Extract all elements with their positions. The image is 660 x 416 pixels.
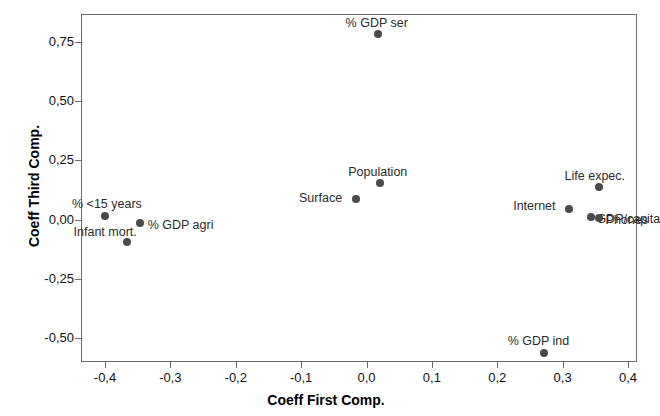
x-tick-label: -0,1 (281, 371, 321, 384)
x-tick-label: -0,2 (216, 371, 256, 384)
x-tick-mark (432, 362, 433, 368)
data-point-label: Internet (513, 200, 555, 213)
x-tick-mark (367, 362, 368, 368)
x-tick-mark (105, 362, 106, 368)
data-point-label: Population (348, 166, 407, 179)
data-point (136, 219, 144, 227)
x-tick-mark (497, 362, 498, 368)
data-point-label: % GDP ind (508, 335, 570, 348)
x-tick-label: -0,3 (150, 371, 190, 384)
data-point (595, 214, 603, 222)
y-axis-title: Coeff Third Comp. (26, 56, 42, 316)
y-tick-mark (75, 338, 81, 339)
x-tick-label: -0,4 (85, 371, 125, 384)
data-point (352, 195, 360, 203)
x-tick-label: 0,0 (347, 371, 387, 384)
x-tick-mark (563, 362, 564, 368)
data-point (595, 183, 603, 191)
x-tick-label: 0,2 (477, 371, 517, 384)
y-tick-mark (75, 42, 81, 43)
y-tick-mark (75, 220, 81, 221)
data-point (374, 30, 382, 38)
y-tick-label: 0,50 (49, 94, 74, 107)
data-point (101, 212, 109, 220)
x-axis-title: Coeff First Comp. (0, 392, 652, 408)
x-tick-label: 0,1 (412, 371, 452, 384)
x-tick-label: 0,3 (543, 371, 583, 384)
data-point (123, 238, 131, 246)
data-point (540, 349, 548, 357)
y-tick-mark (75, 160, 81, 161)
x-tick-mark (628, 362, 629, 368)
y-tick-mark (75, 101, 81, 102)
x-tick-label: 0,4 (608, 371, 648, 384)
data-point-label: Surface (299, 192, 342, 205)
y-tick-mark (75, 279, 81, 280)
y-tick-label: -0,50 (44, 331, 74, 344)
data-point-label: % <15 years (72, 198, 142, 211)
x-tick-mark (170, 362, 171, 368)
plot-area-frame (81, 14, 637, 362)
y-tick-label: -0,25 (44, 272, 74, 285)
x-tick-mark (301, 362, 302, 368)
data-point-label: % GDP ser (346, 17, 408, 30)
data-point-label: Infant mort. (74, 226, 137, 239)
data-point-label: Phones (606, 214, 648, 227)
y-tick-label: 0,75 (49, 35, 74, 48)
data-point-label: Life expec. (565, 170, 625, 183)
y-tick-label: 0,00 (49, 213, 74, 226)
data-point-label: % GDP agri (148, 219, 214, 232)
x-tick-mark (236, 362, 237, 368)
y-tick-label: 0,25 (49, 153, 74, 166)
